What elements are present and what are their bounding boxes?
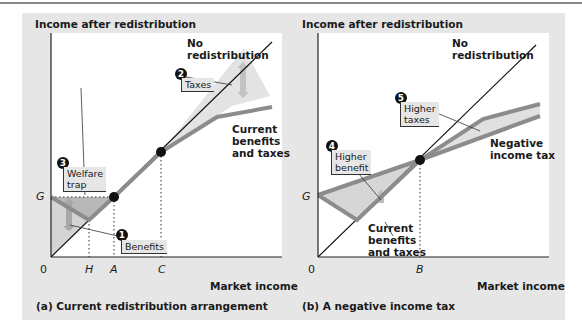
left-caption: (a) Current redistribution arrangement bbox=[36, 300, 268, 312]
label-line: benefits bbox=[368, 234, 426, 246]
right-y-axis-label: Income after redistribution bbox=[302, 18, 463, 30]
left-no-redistribution-label: No redistribution bbox=[187, 37, 269, 61]
label-line: Welfare bbox=[67, 168, 103, 179]
callout-welfare-trap: Welfare trap bbox=[63, 167, 106, 192]
label-line: Negative bbox=[490, 137, 555, 149]
label-line: Current bbox=[232, 123, 290, 135]
label-line: Higher bbox=[335, 151, 368, 162]
left-tick-g: G bbox=[36, 190, 45, 203]
label-line: Higher bbox=[404, 103, 436, 114]
left-tick-a: A bbox=[110, 263, 118, 276]
left-current-label: Current benefits and taxes bbox=[232, 123, 290, 159]
right-caption: (b) A negative income tax bbox=[302, 300, 455, 312]
label-line: redistribution bbox=[187, 49, 269, 61]
label-line: No bbox=[452, 37, 534, 49]
left-tick-origin: 0 bbox=[40, 263, 47, 276]
label-line: and taxes bbox=[368, 246, 426, 258]
label-line: benefit bbox=[335, 162, 368, 173]
left-x-axis-label: Market income bbox=[210, 280, 298, 292]
callout-higher-benefit: Higher benefit bbox=[331, 150, 371, 175]
label-line: taxes bbox=[404, 114, 436, 125]
right-tick-b: B bbox=[416, 263, 424, 276]
right-tick-g: G bbox=[302, 190, 311, 203]
callout-benefits: Benefits bbox=[121, 240, 167, 254]
right-tick-origin: 0 bbox=[308, 263, 315, 276]
right-current-label: Current benefits and taxes bbox=[368, 222, 426, 258]
label-line: benefits bbox=[232, 135, 290, 147]
negative-income-tax-label: Negative income tax bbox=[490, 137, 555, 161]
left-tick-c: C bbox=[158, 263, 166, 276]
label-line: No bbox=[187, 37, 269, 49]
left-y-axis-label: Income after redistribution bbox=[35, 18, 196, 30]
label-line: redistribution bbox=[452, 49, 534, 61]
label-line: Current bbox=[368, 222, 426, 234]
label-line: and taxes bbox=[232, 147, 290, 159]
right-x-axis-label: Market income bbox=[477, 280, 565, 292]
label-line: income tax bbox=[490, 149, 555, 161]
label-line: trap bbox=[67, 179, 103, 190]
left-tick-h: H bbox=[85, 263, 93, 276]
callout-taxes: Taxes bbox=[181, 78, 214, 92]
callout-higher-taxes: Higher taxes bbox=[400, 102, 439, 127]
right-no-redistribution-label: No redistribution bbox=[452, 37, 534, 61]
